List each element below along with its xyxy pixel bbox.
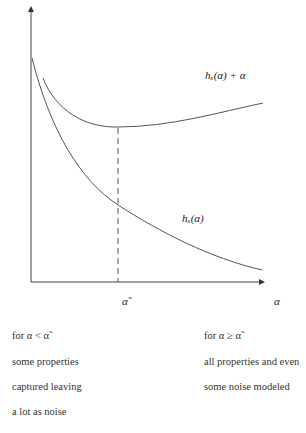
- left-note-line2: some properties: [12, 356, 79, 367]
- right-note-line2: all properties and even: [204, 356, 299, 367]
- left-note-line4: a lot as noise: [12, 406, 67, 417]
- upper-curve-label: hₓ(α) + α: [205, 69, 245, 81]
- left-note-line3: captured leaving: [12, 381, 82, 392]
- right-note-line1: for α ≥ α̃: [204, 330, 241, 341]
- x-axis-label: α: [274, 295, 280, 307]
- left-note-line1: for α < α̃: [12, 330, 49, 341]
- right-note-line3: some noise modeled: [204, 381, 290, 392]
- lower-curve-label: hₓ(α): [182, 212, 204, 224]
- alpha-tilde-label: α̃: [122, 295, 128, 307]
- plot-area: [0, 0, 306, 433]
- lower-curve: [32, 58, 262, 270]
- upper-curve: [43, 78, 263, 127]
